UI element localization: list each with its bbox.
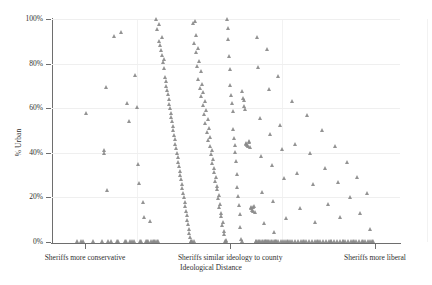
- data-point-triangle: [295, 171, 299, 175]
- data-point-triangle: [169, 111, 173, 115]
- data-point-triangle: [84, 111, 88, 115]
- y-axis-tick-mark: [46, 108, 51, 109]
- data-point-triangle: [203, 99, 207, 103]
- data-point-triangle: [268, 132, 272, 136]
- data-point-triangle: [141, 200, 145, 204]
- data-point-triangle: [214, 175, 218, 179]
- data-point-triangle: [91, 239, 95, 243]
- gridline-vertical: [282, 19, 283, 242]
- y-axis-tick-mark: [46, 153, 51, 154]
- data-point-triangle: [280, 147, 284, 151]
- data-point-triangle: [323, 166, 327, 170]
- data-point-triangle: [233, 150, 237, 154]
- data-point-triangle: [172, 133, 176, 137]
- data-point-triangle: [193, 19, 197, 23]
- data-point-triangle: [225, 17, 229, 21]
- data-point-triangle: [177, 164, 181, 168]
- data-point-triangle: [333, 144, 337, 148]
- data-point-triangle: [227, 54, 231, 58]
- data-point-triangle: [124, 239, 128, 243]
- y-axis-tick-mark: [46, 242, 51, 243]
- data-point-triangle: [228, 83, 232, 87]
- data-point-triangle: [232, 136, 236, 140]
- data-point-triangle: [207, 126, 211, 130]
- data-point-triangle: [247, 139, 251, 143]
- data-point-triangle: [270, 163, 274, 167]
- gridline-vertical: [137, 19, 138, 242]
- plot-area: [52, 19, 400, 242]
- data-point-triangle: [242, 98, 246, 102]
- data-point-triangle: [173, 137, 177, 141]
- data-point-triangle: [276, 74, 280, 78]
- data-point-triangle: [119, 30, 123, 34]
- data-point-triangle: [164, 84, 168, 88]
- data-point-triangle: [162, 66, 166, 70]
- data-point-triangle: [234, 159, 238, 163]
- data-point-triangle: [355, 175, 359, 179]
- x-axis-tick-mark: [230, 244, 231, 249]
- data-point-triangle: [168, 106, 172, 110]
- data-point-triangle: [169, 115, 173, 119]
- data-point-triangle: [259, 154, 263, 158]
- y-axis-tick-mark: [46, 64, 51, 65]
- data-point-triangle: [164, 79, 168, 83]
- data-point-triangle: [192, 239, 196, 243]
- data-point-triangle: [240, 239, 244, 243]
- y-axis-tick-label: 20%: [3, 193, 43, 201]
- data-point-triangle: [142, 215, 146, 219]
- data-point-triangle: [222, 229, 226, 233]
- data-point-triangle: [163, 75, 167, 79]
- data-point-triangle: [237, 203, 241, 207]
- data-point-triangle: [258, 116, 262, 120]
- data-point-triangle: [176, 160, 180, 164]
- data-point-triangle: [271, 199, 275, 203]
- data-point-triangle: [221, 220, 225, 224]
- data-point-triangle: [345, 160, 349, 164]
- data-point-triangle: [100, 239, 104, 243]
- data-point-triangle: [148, 219, 152, 223]
- data-point-triangle: [336, 180, 340, 184]
- data-point-triangle: [248, 145, 252, 149]
- data-point-triangle: [109, 239, 113, 243]
- data-point-triangle: [178, 169, 182, 173]
- data-point-triangle: [181, 191, 185, 195]
- data-point-triangle: [282, 176, 286, 180]
- data-point-triangle: [290, 99, 294, 103]
- data-point-triangle: [200, 82, 204, 86]
- data-point-triangle: [208, 135, 212, 139]
- data-point-triangle: [210, 148, 214, 152]
- x-axis-tick-mark: [85, 244, 86, 249]
- data-point-triangle: [272, 230, 276, 234]
- data-point-triangle: [231, 127, 235, 131]
- data-point-triangle: [135, 105, 139, 109]
- data-point-triangle: [116, 239, 120, 243]
- data-point-triangle: [326, 202, 330, 206]
- data-point-triangle: [159, 48, 163, 52]
- data-point-triangle: [185, 218, 189, 222]
- data-point-triangle: [102, 151, 106, 155]
- data-point-triangle: [187, 231, 191, 235]
- data-point-triangle: [199, 69, 203, 73]
- data-point-triangle: [308, 151, 312, 155]
- data-point-triangle: [256, 65, 260, 69]
- data-point-triangle: [260, 190, 264, 194]
- data-point-triangle: [284, 216, 288, 220]
- data-point-triangle: [243, 107, 247, 111]
- data-point-triangle: [230, 101, 234, 105]
- data-point-triangle: [226, 26, 230, 30]
- x-axis-tick-label: Sheriffs more conservative: [10, 253, 160, 262]
- data-point-triangle: [278, 123, 282, 127]
- data-point-triangle: [371, 239, 375, 243]
- data-point-triangle: [81, 239, 85, 243]
- data-point-triangle: [132, 239, 136, 243]
- data-point-triangle: [267, 87, 271, 91]
- data-point-triangle: [167, 97, 171, 101]
- data-point-triangle: [155, 27, 159, 31]
- data-point-triangle: [160, 35, 164, 39]
- data-point-triangle: [178, 173, 182, 177]
- data-point-triangle: [154, 17, 158, 21]
- data-point-triangle: [175, 151, 179, 155]
- gridline-horizontal: [52, 64, 400, 65]
- data-point-triangle: [238, 212, 242, 216]
- data-point-triangle: [195, 64, 199, 68]
